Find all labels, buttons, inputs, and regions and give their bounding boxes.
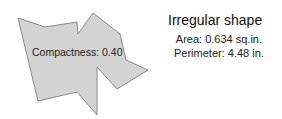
shape-title: Irregular shape (168, 12, 262, 28)
irregular-shape-figure: Compactness: 0.40 (0, 0, 160, 119)
area-value: Area: 0.634 sq.in. (174, 32, 264, 46)
compactness-label: Compactness: 0.40 (32, 46, 123, 58)
shape-measurements: Area: 0.634 sq.in. Perimeter: 4.48 in. (174, 32, 264, 60)
irregular-polygon (18, 13, 148, 115)
perimeter-value: Perimeter: 4.48 in. (174, 46, 264, 60)
